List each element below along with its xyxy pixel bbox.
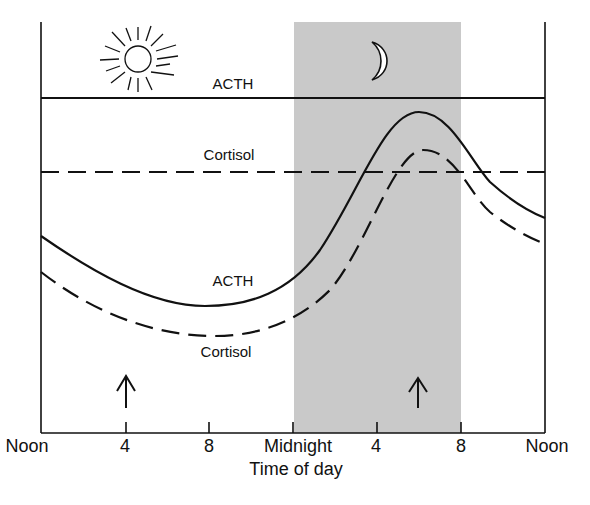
tick-label-noon-start: Noon [5,436,48,457]
acth-curve-label: ACTH [213,272,254,289]
night-shaded-region [294,22,461,433]
cortisol-rhythm-curve [41,150,545,336]
tick-label-4pm: 4 [120,436,130,457]
tick-label-midnight: Midnight [264,436,332,457]
tick-label-8pm: 8 [204,436,214,457]
tick-label-noon-end: Noon [525,436,568,457]
x-axis-title: Time of day [249,459,342,480]
sun-icon [100,26,178,92]
cortisol-flat-label: Cortisol [204,146,255,163]
chart-canvas [0,0,590,505]
acth-rhythm-curve [41,112,545,306]
up-arrow-icon [117,376,135,408]
tick-label-4am: 4 [371,436,381,457]
cortisol-curve-label: Cortisol [201,343,252,360]
tick-label-8am: 8 [456,436,466,457]
acth-flat-label: ACTH [213,75,254,92]
